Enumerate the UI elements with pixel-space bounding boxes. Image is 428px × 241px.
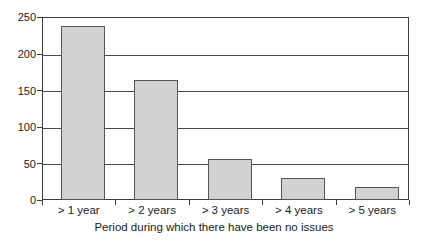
- y-axis-tick-label: 200: [0, 49, 36, 60]
- x-category-label-2: > 3 years: [189, 204, 262, 218]
- y-axis-tick-label: 150: [0, 86, 36, 97]
- y-axis-tick-label: 50: [0, 159, 36, 170]
- bar-4[interactable]: [355, 187, 399, 200]
- y-tick-text-100: 100: [18, 121, 36, 133]
- x-category-label-3: > 4 years: [262, 204, 335, 218]
- y-axis-tick-label: 100: [0, 122, 36, 133]
- bar-0[interactable]: [61, 26, 105, 200]
- bar-1[interactable]: [134, 80, 178, 200]
- y-axis-tick-label: 250: [0, 12, 36, 23]
- x-axis-title: Period during which there have been no i…: [0, 221, 428, 233]
- x-category-text: > 1 year: [58, 204, 100, 216]
- x-category-text: > 2 years: [128, 204, 176, 216]
- y-tick-text-0: 0: [30, 194, 36, 206]
- x-category-label-4: > 5 years: [336, 204, 409, 218]
- x-axis-tick-mark: [409, 200, 410, 205]
- bar-2[interactable]: [208, 159, 252, 200]
- bar-chart: 250 200 150 100 50 0 > 1 year: [0, 0, 428, 241]
- y-tick-text-150: 150: [18, 85, 36, 97]
- y-tick-text-250: 250: [18, 11, 36, 23]
- x-category-text: > 5 years: [348, 204, 396, 216]
- bars-layer: [42, 17, 409, 200]
- y-axis-tick-label: 0: [0, 195, 36, 206]
- x-category-text: > 4 years: [275, 204, 323, 216]
- bar-3[interactable]: [281, 178, 325, 200]
- x-category-label-1: > 2 years: [115, 204, 188, 218]
- x-category-text: > 3 years: [202, 204, 250, 216]
- y-tick-text-50: 50: [24, 158, 36, 170]
- x-category-label-0: > 1 year: [42, 204, 115, 218]
- y-tick-text-200: 200: [18, 48, 36, 60]
